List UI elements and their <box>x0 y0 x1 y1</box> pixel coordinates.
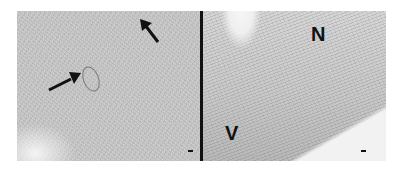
vessel-structure <box>79 64 103 94</box>
left-panel-micrograph <box>17 11 200 161</box>
arrow-icon <box>47 71 81 93</box>
scale-bar <box>188 150 193 152</box>
lumen-region <box>211 11 271 51</box>
label-v: V <box>225 123 238 143</box>
scale-bar <box>361 150 366 152</box>
right-panel-micrograph: N V <box>203 11 386 161</box>
label-n: N <box>311 24 325 44</box>
micrograph-figure: N V <box>17 11 386 161</box>
arrow-icon <box>139 19 161 45</box>
